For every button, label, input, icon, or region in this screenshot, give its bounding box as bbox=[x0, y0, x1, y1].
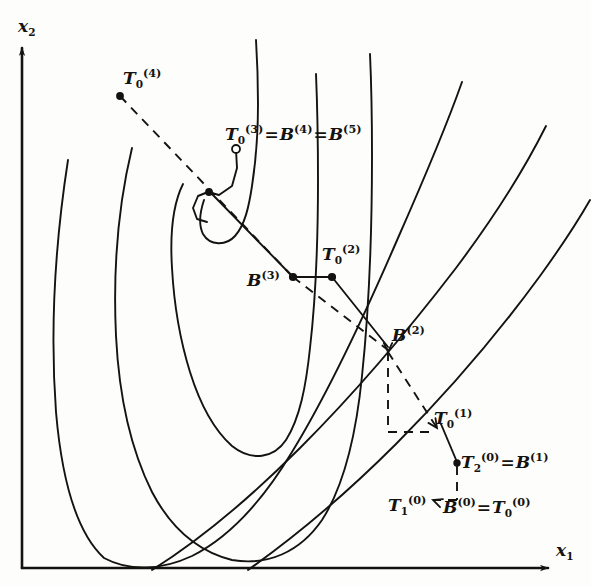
y-axis-label: x2 bbox=[18, 18, 35, 38]
marker-B-3 bbox=[290, 274, 296, 280]
label-T0-4: T0(4) bbox=[123, 68, 161, 90]
dash-B2-diag bbox=[388, 352, 437, 428]
label-T2-0: T2(0)=B(1) bbox=[461, 452, 548, 474]
label-B-2: B(2) bbox=[392, 325, 425, 344]
marker-T2-0 bbox=[454, 460, 460, 466]
label-T0-3: T0(3)=B(4)=B(5) bbox=[225, 124, 362, 146]
label-B-0: B(0)=T0(0) bbox=[443, 497, 530, 519]
segment-T02-B2 bbox=[332, 277, 388, 347]
marker-inner-dot bbox=[206, 189, 212, 195]
contour-curves-group bbox=[53, 40, 590, 570]
figure-root: x2x1T0(4)T0(3)=B(4)=B(5)T0(2)B(3)B(2)T0(… bbox=[0, 0, 591, 586]
label-T1-0: T1(0) bbox=[388, 495, 426, 517]
label-B-3: B(3) bbox=[247, 270, 280, 289]
marker-T0-2 bbox=[329, 274, 335, 280]
point-markers-group bbox=[117, 93, 460, 466]
trajectory-dashed-group bbox=[120, 96, 457, 500]
label-T0-2: T0(2) bbox=[322, 244, 360, 266]
segment-T03-stem bbox=[208, 150, 237, 195]
marker-T0-3 bbox=[232, 145, 240, 153]
trajectory-solid-group bbox=[193, 150, 457, 462]
arrowhead-T1-0 bbox=[433, 499, 443, 507]
x-axis-label: x1 bbox=[556, 542, 573, 562]
marker-T0-4 bbox=[117, 93, 123, 99]
label-T0-1: T0(1) bbox=[434, 408, 472, 430]
